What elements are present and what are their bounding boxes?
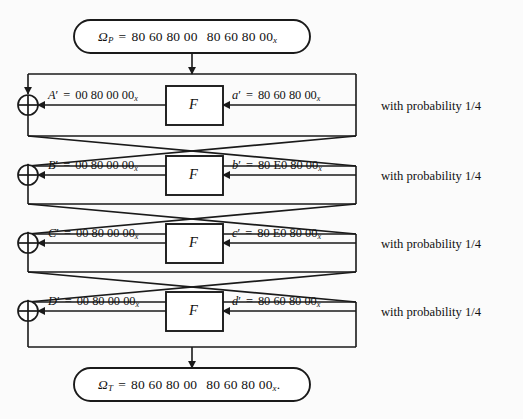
round2-left-prime: ′	[56, 158, 59, 172]
round1-right-equals: =	[246, 88, 253, 102]
round3-left-label: C′=00 80 00 00x	[48, 226, 138, 241]
round3-right-label: c′=80 E0 80 00x	[232, 226, 321, 241]
round3-left-equals: =	[64, 226, 71, 240]
round2-right-label: b′=80 E0 80 00x	[232, 158, 322, 173]
round4-right-value: 80 60 80 00	[258, 294, 317, 308]
figure-canvas: ΩP=80 60 80 0080 60 80 00x A′=00 80 00 0…	[0, 0, 523, 419]
output-equals: =	[118, 377, 126, 392]
input-value-left: 80 60 80 00	[131, 29, 197, 44]
round4-probability-label: with probability 1/4	[381, 305, 481, 320]
round3-right-equals: =	[245, 226, 252, 240]
input-hex-subscript: x	[273, 35, 277, 45]
round1-probability-label: with probability 1/4	[381, 99, 481, 114]
round3-right-value: 80 E0 80 00	[257, 226, 317, 240]
round2-left-hex-sub: x	[134, 164, 138, 173]
input-value-right: 80 60 80 00	[207, 29, 273, 44]
round3-left-prime: ′	[56, 226, 59, 240]
round4-right-label: d′=80 60 80 00x	[232, 294, 320, 309]
output-trailing-period: .	[277, 377, 281, 392]
round1-left-prime: ′	[56, 88, 59, 102]
round1-left-label: A′=00 80 00 00x	[48, 88, 138, 103]
input-equals: =	[119, 29, 127, 44]
round4-f-label: F	[189, 302, 198, 319]
round2-left-label: B′=00 80 00 00x	[48, 158, 138, 173]
round3-probability-label: with probability 1/4	[381, 237, 481, 252]
round4-left-value: 00 80 00 00	[77, 294, 136, 308]
round2-right-prime: ′	[238, 158, 241, 172]
round1-right-hex-sub: x	[317, 94, 321, 103]
round3-right-prime: ′	[238, 226, 241, 240]
round4-left-prime: ′	[57, 294, 60, 308]
round4-right-prime: ′	[238, 294, 241, 308]
round3-f-label: F	[189, 234, 198, 251]
round2-right-value: 80 E0 80 00	[258, 158, 318, 172]
round2-f-label: F	[189, 166, 198, 183]
round1-right-label: a′=80 60 80 00x	[232, 88, 320, 103]
round3-left-value: 00 80 00 00	[76, 226, 135, 240]
omega-p-symbol: Ω	[98, 29, 108, 44]
output-value-right: 80 60 80 00	[206, 377, 272, 392]
input-terminal-label: ΩP=80 60 80 0080 60 80 00x	[98, 29, 277, 45]
round4-left-equals: =	[65, 294, 72, 308]
output-terminal-label: ΩT=80 60 80 0080 60 80 00x.	[98, 377, 280, 393]
round4-right-hex-sub: x	[317, 300, 321, 309]
round1-left-name: A	[48, 88, 56, 102]
round3-left-hex-sub: x	[135, 232, 139, 241]
round1-left-hex-sub: x	[134, 94, 138, 103]
round1-right-value: 80 60 80 00	[258, 88, 317, 102]
round2-left-equals: =	[63, 158, 70, 172]
omega-t-symbol: Ω	[98, 377, 108, 392]
round2-left-name: B	[48, 158, 56, 172]
round1-right-prime: ′	[238, 88, 241, 102]
output-value-left: 80 60 80 00	[131, 377, 197, 392]
round2-right-equals: =	[246, 158, 253, 172]
round1-left-value: 00 80 00 00	[75, 88, 134, 102]
round2-left-value: 00 80 00 00	[75, 158, 134, 172]
round2-probability-label: with probability 1/4	[381, 169, 481, 184]
round4-left-name: D	[48, 294, 57, 308]
omega-t-subscript: T	[108, 383, 113, 393]
round4-left-label: D′=00 80 00 00x	[48, 294, 139, 309]
round1-f-label: F	[189, 96, 198, 113]
round2-right-hex-sub: x	[318, 164, 322, 173]
round1-left-equals: =	[63, 88, 70, 102]
round4-left-hex-sub: x	[136, 300, 140, 309]
round3-right-hex-sub: x	[317, 232, 321, 241]
omega-p-subscript: P	[108, 35, 114, 45]
diagram-wires	[0, 0, 523, 419]
round4-right-equals: =	[246, 294, 253, 308]
